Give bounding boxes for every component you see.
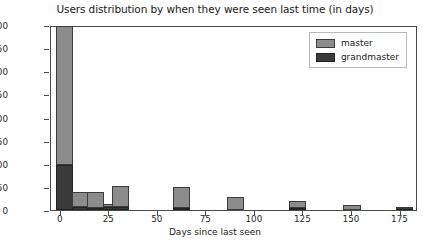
x-tick-mark-50 <box>157 211 158 216</box>
y-tick-mark-350 <box>44 49 49 50</box>
bar-segment-master <box>173 187 190 208</box>
legend-item-grandmaster: grandmaster <box>316 51 399 63</box>
x-axis-label: Days since last seen <box>0 227 430 237</box>
y-tick-label-250: 250 <box>0 90 8 100</box>
plot-area: master grandmaster <box>50 26 417 211</box>
y-tick-label-200: 200 <box>0 114 8 124</box>
legend-label-master: master <box>341 38 373 48</box>
y-tick-label-350: 350 <box>0 44 8 54</box>
bar-segment-master <box>56 26 73 164</box>
bar-segment-grandmaster <box>112 207 129 210</box>
x-tick-mark-125 <box>302 211 303 216</box>
bar-segment-grandmaster <box>56 165 73 210</box>
histogram-bar <box>56 25 73 210</box>
bar-segment-grandmaster <box>173 208 190 210</box>
y-tick-mark-250 <box>44 95 49 96</box>
x-tick-mark-0 <box>60 211 61 216</box>
bar-segment-grandmaster <box>87 208 104 210</box>
chart-title: Users distribution by when they were see… <box>0 3 430 15</box>
histogram-bar <box>173 25 190 210</box>
legend-label-grandmaster: grandmaster <box>341 52 399 62</box>
y-tick-label-100: 100 <box>0 160 8 170</box>
y-tick-label-300: 300 <box>0 67 8 77</box>
y-tick-mark-50 <box>44 188 49 189</box>
histogram-bar <box>112 25 129 210</box>
y-tick-mark-300 <box>44 72 49 73</box>
y-tick-label-0: 0 <box>0 206 8 216</box>
y-tick-label-400: 400 <box>0 21 8 31</box>
y-tick-mark-0 <box>44 211 49 212</box>
legend-item-master: master <box>316 37 399 49</box>
bar-segment-master <box>72 192 89 208</box>
bar-segment-grandmaster <box>72 207 89 210</box>
y-tick-label-150: 150 <box>0 137 8 147</box>
y-tick-mark-400 <box>44 26 49 27</box>
legend-swatch-master <box>316 39 335 48</box>
bar-segment-master <box>87 192 104 209</box>
y-tick-mark-200 <box>44 119 49 120</box>
x-tick-mark-100 <box>254 211 255 216</box>
x-tick-mark-75 <box>205 211 206 216</box>
histogram-bar <box>289 25 306 210</box>
bar-segment-master <box>289 201 306 208</box>
x-tick-mark-25 <box>108 211 109 216</box>
histogram-bar <box>227 25 244 210</box>
chart-legend: master grandmaster <box>309 32 407 68</box>
y-tick-mark-150 <box>44 142 49 143</box>
y-tick-label-50: 50 <box>0 183 8 193</box>
legend-swatch-grandmaster <box>316 53 335 62</box>
chart-figure: Users distribution by when they were see… <box>0 0 430 243</box>
histogram-bar <box>87 25 104 210</box>
x-tick-mark-175 <box>400 211 401 216</box>
bar-segment-master <box>343 205 360 210</box>
histogram-bar <box>72 25 89 210</box>
bar-segment-grandmaster <box>289 208 306 210</box>
bar-segment-master <box>112 186 129 207</box>
x-tick-mark-150 <box>351 211 352 216</box>
bar-segment-master <box>227 197 244 210</box>
bar-segment-master <box>396 207 413 209</box>
y-tick-mark-100 <box>44 165 49 166</box>
